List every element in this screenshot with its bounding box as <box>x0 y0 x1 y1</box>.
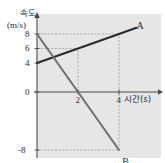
y-axis-title-line1: 속도 <box>20 9 36 18</box>
x-tick-label-2: 2 <box>76 96 81 105</box>
series-label-a: A <box>136 21 143 31</box>
y-tick-label-4: 4 <box>25 59 30 68</box>
x-tick-label-4: 4 <box>117 96 122 105</box>
y-axis-title-line2: (m/s) <box>7 21 26 30</box>
velocity-time-graph-figure: 속도(m/s)시간(s)8640-824AB <box>0 0 165 163</box>
y-tick-label--8: -8 <box>18 146 26 155</box>
y-tick-label-6: 6 <box>25 44 30 53</box>
y-tick-label-8: 8 <box>25 30 30 39</box>
x-axis-title: 시간(s) <box>124 95 151 104</box>
series-label-b: B <box>122 157 129 163</box>
y-tick-label-0: 0 <box>25 88 30 97</box>
plot-background <box>37 14 161 158</box>
